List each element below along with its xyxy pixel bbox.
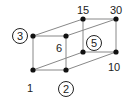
node-1	[30, 67, 35, 72]
node-label-30: 30	[110, 4, 122, 16]
node-6	[63, 33, 68, 38]
node-5	[80, 49, 85, 54]
node-label-15: 15	[77, 4, 89, 16]
node-label-5: 5	[91, 37, 97, 49]
edges	[33, 19, 116, 70]
node-30	[113, 16, 118, 21]
edge-n1-n5	[33, 52, 83, 70]
edge-n3-n15	[33, 19, 83, 36]
node-2	[63, 67, 68, 72]
node-label-3: 3	[17, 30, 23, 42]
node-15	[80, 16, 85, 21]
lattice-diagram: 12365101530	[0, 0, 131, 98]
nodes	[30, 16, 118, 72]
node-3	[30, 33, 35, 38]
node-label-1: 1	[27, 82, 33, 94]
node-label-10: 10	[108, 61, 120, 73]
edge-n6-n30	[66, 19, 116, 36]
node-label-2: 2	[63, 83, 69, 95]
node-label-6: 6	[56, 42, 62, 54]
node-10	[113, 49, 118, 54]
labels: 12365101530	[13, 4, 123, 97]
